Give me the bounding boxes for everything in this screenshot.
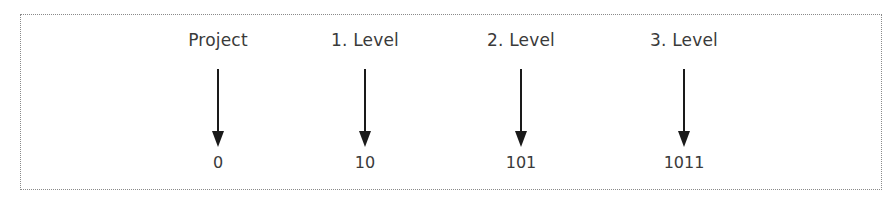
level-label: Project <box>138 30 298 50</box>
level-value: 1011 <box>604 153 764 172</box>
column-level-1: 1. Level 10 <box>285 0 445 201</box>
level-label: 3. Level <box>604 30 764 50</box>
column-level-2: 2. Level 101 <box>441 0 601 201</box>
level-value: 10 <box>285 153 445 172</box>
level-value: 0 <box>138 153 298 172</box>
down-arrow-icon <box>210 69 226 147</box>
column-level-3: 3. Level 1011 <box>604 0 764 201</box>
level-label: 1. Level <box>285 30 445 50</box>
down-arrow-icon <box>513 69 529 147</box>
down-arrow-icon <box>357 69 373 147</box>
column-project: Project 0 <box>138 0 298 201</box>
level-label: 2. Level <box>441 30 601 50</box>
level-value: 101 <box>441 153 601 172</box>
down-arrow-icon <box>676 69 692 147</box>
